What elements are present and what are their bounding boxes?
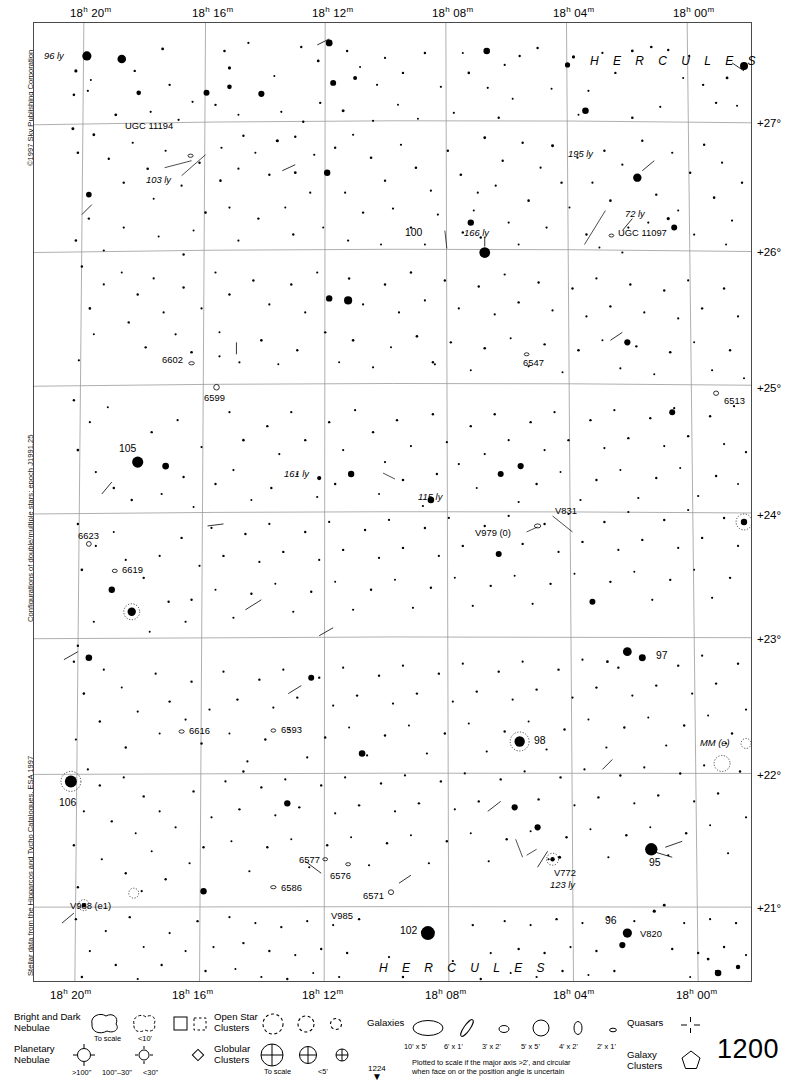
legend-galaxy-size-3: 5' x 5' [521, 1042, 540, 1051]
ra-tick-top-3: 18h 08m [432, 5, 473, 19]
label-v820: V820 [640, 929, 662, 938]
ra-tick-top-1: 18h 16m [192, 5, 233, 19]
ra-tick-top-0: 18h 20m [70, 5, 111, 19]
label-106: 106 [59, 798, 76, 808]
coordinate-grid [34, 23, 751, 981]
legend-galaxies-title: Galaxies [367, 1018, 404, 1029]
label-leader-lines [165, 155, 606, 858]
dec-tick-27: +27° [757, 117, 781, 129]
legend-galaxy-size-5: 2' x 1' [597, 1042, 616, 1051]
label-72ly: 72 ly [625, 209, 645, 218]
label-96: 96 [605, 916, 617, 926]
label-v985: V985 [331, 911, 353, 920]
dec-tick-24: +24° [757, 509, 781, 521]
ra-tick-bottom-0: 18h 20m [50, 987, 91, 1001]
legend-galaxy-size-2: 3' x 2' [482, 1042, 501, 1051]
nebula-symbol-group [86, 1010, 196, 1036]
planetary-nebula-symbol-group [68, 1042, 223, 1068]
ra-tick-top-2: 18h 12m [312, 5, 353, 19]
label-195ly: 195 ly [568, 149, 593, 158]
legend-globular-to-scale: To scale [264, 1067, 291, 1076]
legend-galaxy-clusters-title: Galaxy Clusters [627, 1050, 662, 1071]
label-102: 102 [400, 926, 417, 936]
label-6616: 6616 [189, 726, 210, 735]
ra-tick-top-4: 18h 04m [553, 5, 594, 19]
legend-quasars-title: Quasars [627, 1018, 663, 1029]
legend-galaxy-size-1: 6' x 1' [444, 1042, 463, 1051]
next-page-pointer: 1224 ▼ [368, 1064, 386, 1080]
label-mm-e: MM (e) [700, 738, 730, 747]
legend-planetary-small: <30" [143, 1068, 158, 1077]
dec-tick-23: +23° [757, 633, 781, 645]
label-v772: V772 [554, 868, 576, 877]
label-ugc11194: UGC 11194 [125, 121, 173, 130]
star-chart-canvas[interactable]: 96 ly UGC 11194 103 ly 195 ly 72 ly UGC … [33, 22, 752, 982]
label-95: 95 [649, 858, 661, 868]
label-100: 100 [405, 228, 422, 238]
chart-legend: Bright and Dark Nebulae To scale <10' Pl… [0, 1006, 801, 1091]
label-v831: V831 [555, 506, 577, 515]
legend-open-clusters-title: Open Star Clusters [214, 1012, 258, 1033]
dec-tick-22: +22° [757, 769, 781, 781]
open-cluster-symbol-group [258, 1010, 358, 1036]
dec-tick-25: +25° [757, 382, 781, 394]
label-6599: 6599 [204, 393, 225, 402]
label-115ly: 115 ly [418, 492, 442, 501]
label-103ly: 103 ly [146, 175, 171, 184]
label-6602: 6602 [162, 355, 183, 364]
legend-nebulae-title: Bright and Dark Nebulae [14, 1012, 81, 1033]
label-123ly: 123 ly [550, 880, 575, 889]
label-6577: 6577 [299, 855, 320, 864]
ra-tick-bottom-3: 18h 08m [425, 987, 466, 1001]
label-ugc11097: UGC 11097 [618, 228, 667, 237]
label-v988: V988 (e1) [70, 901, 111, 910]
quasar-symbol [678, 1014, 704, 1036]
galaxy-symbol-group [410, 1012, 630, 1040]
ra-tick-bottom-5: 18h 00m [676, 987, 717, 1001]
label-6619: 6619 [122, 565, 143, 574]
constellation-label-top: H E R C U L E S [590, 54, 761, 68]
legend-galaxy-size-4: 4' x 2' [559, 1042, 578, 1051]
legend-galaxy-size-0: 10' x 5' [404, 1042, 427, 1051]
globular-cluster-symbol-group [256, 1042, 366, 1068]
constellation-label-bottom: H E R C U L E S [379, 961, 550, 975]
dark-nebula-small-symbol [192, 1016, 210, 1032]
label-105: 105 [119, 444, 136, 454]
ra-tick-bottom-4: 18h 04m [553, 987, 594, 1001]
legend-planetary-medium: 100"–30" [102, 1068, 132, 1077]
label-98: 98 [534, 736, 546, 746]
dec-tick-21: +21° [757, 902, 781, 914]
label-v979: V979 (0) [475, 528, 511, 537]
deep-sky-objects [86, 154, 718, 894]
ra-tick-bottom-2: 18h 12m [302, 987, 343, 1001]
down-arrow-icon: ▼ [368, 1073, 386, 1080]
label-6586: 6586 [281, 883, 302, 892]
ra-tick-top-5: 18h 00m [673, 5, 714, 19]
label-96ly: 96 ly [44, 51, 64, 60]
label-6547: 6547 [523, 358, 544, 367]
dec-tick-26: +26° [757, 246, 781, 258]
label-6593: 6593 [281, 725, 302, 734]
legend-planetary-large: >100" [72, 1068, 91, 1077]
label-166ly: 166 ly [464, 228, 489, 237]
galaxy-cluster-symbol [678, 1048, 704, 1072]
page-number: 1200 [717, 1034, 779, 1065]
label-161ly: 161 ly [284, 469, 309, 478]
label-6571: 6571 [363, 891, 384, 900]
label-6576: 6576 [330, 871, 351, 880]
legend-globular-title: Globular Clusters [214, 1044, 250, 1065]
label-97: 97 [656, 651, 668, 661]
label-6513: 6513 [724, 396, 745, 405]
legend-globular-small: <5' [318, 1067, 328, 1076]
sky-plot [34, 23, 751, 981]
legend-galaxy-note: Plotted to scale if the major axis >2', … [412, 1058, 571, 1076]
legend-planetary-title: Planetary Nebulae [14, 1044, 55, 1065]
label-6623: 6623 [78, 531, 99, 540]
ra-tick-bottom-1: 18h 16m [172, 987, 213, 1001]
